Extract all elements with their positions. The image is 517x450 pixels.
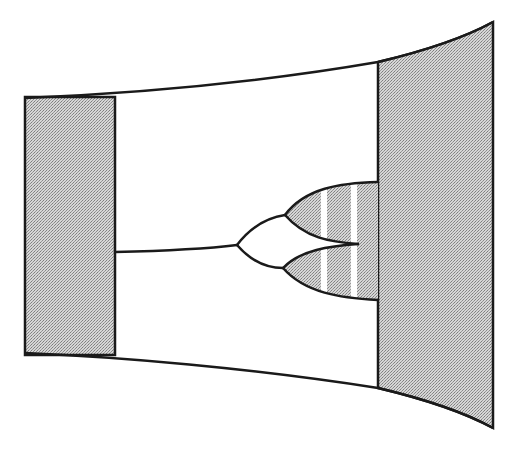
diagram-canvas xyxy=(0,0,517,450)
right-panel xyxy=(378,22,493,428)
left-panel xyxy=(25,97,115,355)
funnel-tree-diagram xyxy=(0,0,517,450)
stripe-2 xyxy=(351,175,357,305)
